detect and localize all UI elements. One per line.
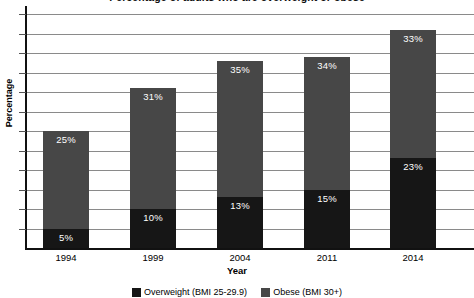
bar-value-label: 31%	[130, 91, 176, 102]
bar-value-label: 35%	[217, 64, 263, 75]
bar-segment-overweight[interactable]: 33%	[390, 30, 436, 159]
bar-group[interactable]: 33%23%	[390, 30, 436, 248]
bar-group[interactable]: 35%13%	[217, 61, 263, 248]
bar-segment-obese[interactable]: 10%	[130, 209, 176, 248]
bar-value-label: 25%	[43, 134, 89, 145]
bar-segment-obese[interactable]: 13%	[217, 197, 263, 248]
x-axis-tick-label: 2011	[292, 252, 362, 263]
x-axis-tick-label: 1994	[31, 252, 101, 263]
legend-label: Overweight (BMI 25-29.9)	[144, 287, 247, 297]
bar-group[interactable]: 34%15%	[304, 57, 350, 248]
x-axis-tick-label: 1999	[118, 252, 188, 263]
stacked-bar-chart: Percentage of adults who are overweight …	[0, 0, 474, 298]
chart-legend: Overweight (BMI 25-29.9)Obese (BMI 30+)	[0, 286, 474, 298]
x-axis-title: Year	[0, 265, 474, 276]
bar-value-label: 13%	[217, 200, 263, 211]
legend-swatch	[261, 288, 270, 297]
bar-segment-overweight[interactable]: 34%	[304, 57, 350, 190]
bar-segment-obese[interactable]: 23%	[390, 158, 436, 248]
bar-value-label: 10%	[130, 212, 176, 223]
bar-value-label: 15%	[304, 193, 350, 204]
bar-value-label: 33%	[390, 33, 436, 44]
bar-segment-obese[interactable]: 15%	[304, 190, 350, 249]
x-axis-tick-label: 2014	[378, 252, 448, 263]
legend-item[interactable]: Obese (BMI 30+)	[261, 287, 342, 297]
bar-group[interactable]: 31%10%	[130, 88, 176, 248]
bar-segment-overweight[interactable]: 35%	[217, 61, 263, 198]
legend-swatch	[132, 288, 141, 297]
bar-segment-overweight[interactable]: 25%	[43, 131, 89, 229]
bar-value-label: 34%	[304, 60, 350, 71]
bar-segment-obese[interactable]: 5%	[43, 229, 89, 249]
legend-label: Obese (BMI 30+)	[273, 287, 342, 297]
bar-value-label: 5%	[43, 232, 89, 243]
legend-item[interactable]: Overweight (BMI 25-29.9)	[132, 287, 247, 297]
x-axis-tick-label: 2004	[205, 252, 275, 263]
bar-value-label: 23%	[390, 161, 436, 172]
bar-group[interactable]: 25%5%	[43, 131, 89, 248]
bar-segment-overweight[interactable]: 31%	[130, 88, 176, 209]
